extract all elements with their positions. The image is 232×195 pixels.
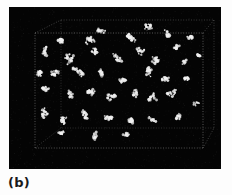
aggregate-cluster <box>67 90 73 99</box>
aggregate-cluster <box>36 70 43 77</box>
aggregate-cluster <box>132 89 139 98</box>
aggregate-cluster <box>104 115 114 121</box>
aggregate-cluster <box>147 92 158 102</box>
aggregate-cluster <box>118 77 127 83</box>
aggregate-cluster <box>164 29 171 38</box>
aggregate-cluster <box>136 47 146 56</box>
aggregate-cluster <box>161 76 170 82</box>
figure-container: (b) <box>0 0 232 195</box>
aggregate-cluster <box>72 67 85 78</box>
aggregate-cluster <box>126 33 137 43</box>
aggregate-cluster <box>92 130 98 141</box>
aggregate-cluster <box>50 69 60 76</box>
aggregate-cluster <box>182 58 188 64</box>
aggregate-cluster <box>112 53 123 63</box>
aggregate-cluster <box>98 68 104 77</box>
aggregate-cluster <box>41 107 49 119</box>
aggregate-cluster <box>64 53 75 65</box>
aggregate-cluster <box>175 113 182 120</box>
aggregate-cluster <box>193 101 200 106</box>
aggregate-cluster <box>166 89 177 98</box>
aggregate-cluster <box>86 88 95 97</box>
aggregate-cluster <box>144 23 153 30</box>
aggregate-cluster <box>41 86 50 93</box>
aggregate-cluster-group <box>36 23 202 141</box>
aggregate-cluster <box>173 44 181 50</box>
aggregate-cluster <box>127 117 134 124</box>
aggregate-cluster <box>106 93 117 101</box>
aggregate-cluster <box>42 46 49 58</box>
aggregate-cluster <box>81 109 89 120</box>
figure-caption-label: (b) <box>8 175 30 191</box>
aggregate-cluster <box>60 116 67 125</box>
simulation-snapshot-panel <box>9 7 221 169</box>
aggregate-cluster <box>145 66 153 77</box>
aggregate-cluster <box>57 130 65 135</box>
aggregate-cluster <box>91 47 99 55</box>
aggregate-cluster <box>151 56 160 65</box>
aggregate-cluster <box>57 38 64 44</box>
aggregate-cluster <box>148 116 158 123</box>
aggregate-cluster <box>196 53 202 57</box>
aggregate-cluster <box>186 35 194 40</box>
aggregate-cluster <box>85 36 96 45</box>
simulation-canvas <box>9 7 221 169</box>
aggregate-cluster <box>122 132 130 137</box>
aggregate-cluster <box>183 76 190 81</box>
